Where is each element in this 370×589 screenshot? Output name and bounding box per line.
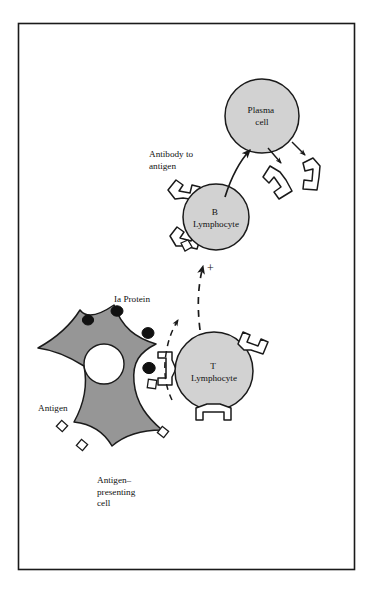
ia-protein-dot-icon [143, 362, 155, 373]
ia-protein-label: Ia Protein [114, 294, 150, 304]
b-lymphocyte-body [183, 184, 249, 250]
antigen-label: Antigen [38, 403, 68, 413]
apc-nucleus [84, 344, 124, 384]
ia-protein-dot-icon [111, 306, 123, 316]
antigen-square-icon [147, 379, 156, 388]
activation-plus-label: + [207, 261, 214, 275]
immunology-diagram: T Lymphocyte B Lymphocyte Plasma cell [0, 0, 370, 589]
plasma-cell: Plasma cell [225, 79, 299, 153]
figure-canvas: T Lymphocyte B Lymphocyte Plasma cell [0, 0, 370, 589]
ia-protein-dot-icon [82, 315, 93, 325]
figure-border [19, 24, 355, 570]
ia-protein-dot-icon [142, 328, 154, 339]
